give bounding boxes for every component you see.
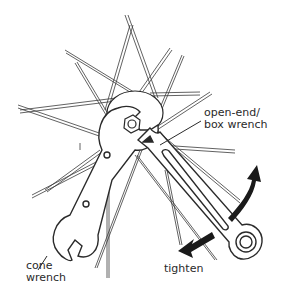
- cone-wrench: [53, 106, 158, 260]
- label-line: box wrench: [204, 119, 267, 131]
- diagram-illustration: [0, 0, 282, 299]
- label-line: tighten: [164, 263, 203, 275]
- hex-nut: [124, 115, 140, 133]
- cone-wrench-label: cone wrench: [26, 260, 66, 284]
- label-line: wrench: [26, 272, 66, 284]
- hub-wrench-diagram: open-end/ box wrench cone wrench tighten: [0, 0, 282, 299]
- arrow-up-icon: [228, 165, 261, 222]
- tighten-label: tighten: [164, 263, 203, 275]
- open-end-box-wrench-label: open-end/ box wrench: [204, 107, 267, 131]
